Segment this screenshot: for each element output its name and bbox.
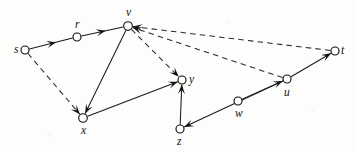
arrowhead-u-t [321,53,331,61]
edge-v-y [131,29,178,76]
edge-u-t [291,53,331,76]
node-label-r: r [75,19,79,31]
node-label-v: v [126,7,131,19]
node-label-x: x [81,125,86,137]
node-label-s: s [14,44,18,56]
edge-s-r [29,38,72,49]
graph-canvas [0,0,356,152]
node-z[interactable] [176,125,184,133]
node-label-u: u [284,87,290,99]
edge-v-x [85,30,126,113]
node-label-y: y [189,74,194,86]
directed-graph-figure: srvtyxzwu [0,0,356,152]
node-w[interactable] [234,97,242,105]
node-s[interactable] [21,46,29,54]
edge-t-v [133,27,331,51]
node-label-w: w [235,108,243,120]
node-v[interactable] [124,22,133,31]
node-u[interactable] [283,75,291,83]
edge-u-z [184,81,283,127]
node-x[interactable] [79,114,88,123]
node-t[interactable] [331,47,339,55]
node-label-t: t [341,45,344,57]
node-y[interactable] [178,76,186,84]
node-label-z: z [177,136,181,148]
node-r[interactable] [73,33,81,41]
edge-x-y [88,82,178,117]
edge-s-x [28,53,80,114]
